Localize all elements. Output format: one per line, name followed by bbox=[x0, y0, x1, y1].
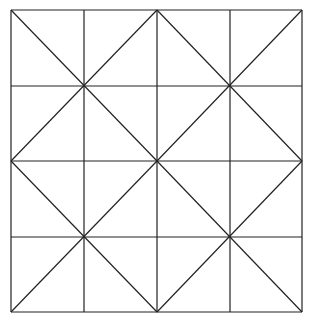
grid-diagram bbox=[0, 0, 312, 322]
